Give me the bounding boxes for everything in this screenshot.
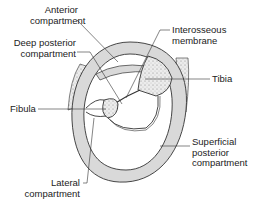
label-line: compartment — [4, 49, 76, 60]
label-tibia: Tibia — [212, 74, 232, 85]
label-superficial-posterior-compartment: Superficial posterior compartment — [192, 137, 247, 169]
label-line: compartment — [192, 158, 247, 169]
label-line: Lateral — [8, 178, 80, 189]
fibula-bone — [103, 99, 118, 118]
label-line: Interosseous — [172, 25, 226, 36]
label-fibula: Fibula — [10, 104, 36, 115]
label-line: Anterior — [30, 5, 78, 16]
label-line: compartment — [8, 189, 80, 200]
lateral-septum — [86, 100, 104, 108]
label-deep-posterior-compartment: Deep posterior compartment — [4, 38, 76, 59]
label-line: compartment — [30, 16, 78, 27]
label-interosseous-membrane: Interosseous membrane — [172, 25, 226, 46]
label-line: membrane — [172, 36, 226, 47]
label-line: Superficial — [192, 137, 247, 148]
label-anterior-compartment: Anterior compartment — [30, 5, 78, 26]
label-line: Deep posterior — [4, 38, 76, 49]
label-lateral-compartment: Lateral compartment — [8, 178, 80, 199]
